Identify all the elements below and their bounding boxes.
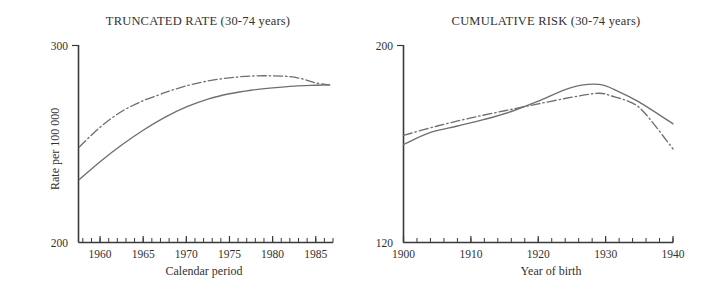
x-tick-label: 1970: [175, 248, 198, 260]
x-tick-label: 1980: [261, 248, 284, 260]
x-tick-label: 1910: [459, 248, 482, 260]
x-tick-label: 1920: [527, 248, 550, 260]
y-tick-label-max-right: 200: [376, 40, 394, 52]
x-axis-label-left: Calendar period: [0, 264, 356, 279]
x-axis-label-right: Year of birth: [356, 264, 712, 279]
chart-panel-cumulative-risk: CUMULATIVE RISK (30-74 years) 200 120 19…: [356, 0, 712, 299]
chart-svg-right: 200 120 19001910192019301940: [356, 0, 712, 299]
x-ticks-right: 19001910192019301940: [392, 236, 685, 260]
y-tick-label-min-left: 200: [51, 237, 69, 249]
x-tick-label: 1960: [89, 248, 112, 260]
x-tick-label: 1985: [304, 248, 327, 260]
series-group-left: [79, 76, 329, 180]
x-tick-label: 1930: [594, 248, 617, 260]
chart-panel-truncated-rate: TRUNCATED RATE (30-74 years) 300 200 196…: [0, 0, 356, 299]
x-tick-label: 1965: [132, 248, 155, 260]
series-line-solid: [404, 84, 674, 144]
series-line-solid: [79, 85, 329, 180]
figure-page: TRUNCATED RATE (30-74 years) 300 200 196…: [0, 0, 712, 299]
x-ticks-left: 196019651970197519801985: [83, 236, 333, 260]
x-tick-label: 1975: [218, 248, 241, 260]
series-group-right: [404, 84, 674, 149]
y-tick-label-max-left: 300: [51, 40, 69, 52]
y-axis-label-left: Rate per 100 000: [48, 108, 63, 190]
x-tick-label: 1900: [392, 248, 415, 260]
y-tick-label-min-right: 120: [376, 237, 394, 249]
x-tick-label: 1940: [662, 248, 685, 260]
